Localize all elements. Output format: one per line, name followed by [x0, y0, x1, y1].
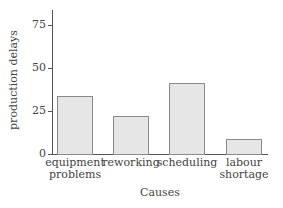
- bar-chart: 0255075 equipmentproblemsreworkingschedu…: [0, 0, 283, 208]
- bar: [113, 116, 149, 155]
- y-axis: [52, 10, 53, 155]
- category-label: labourshortage: [209, 157, 279, 181]
- y-axis-label: production delays: [7, 30, 20, 130]
- y-tick: [48, 68, 52, 69]
- bar: [226, 139, 262, 155]
- bar: [57, 96, 93, 155]
- bar: [169, 83, 205, 155]
- y-tick: [48, 111, 52, 112]
- y-tick: [48, 154, 52, 155]
- x-axis-label: Causes: [52, 186, 268, 199]
- y-tick: [48, 25, 52, 26]
